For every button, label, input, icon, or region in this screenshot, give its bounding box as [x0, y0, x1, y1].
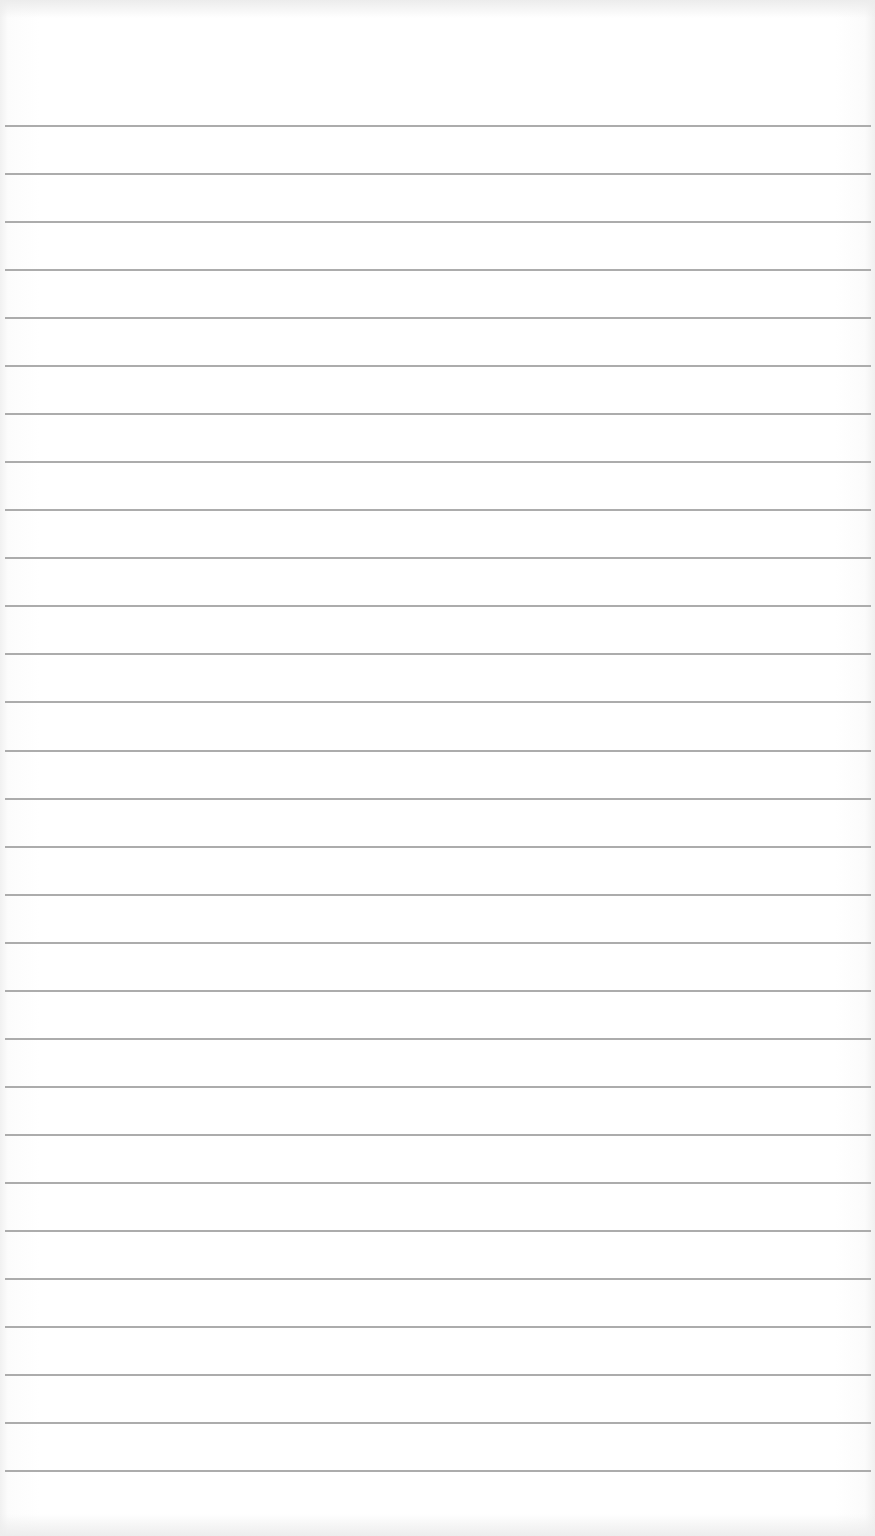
ruled-line — [5, 653, 871, 655]
ruled-line — [5, 1230, 871, 1232]
ruled-line — [5, 846, 871, 848]
ruled-line — [5, 365, 871, 367]
ruled-line — [5, 701, 871, 703]
ruled-line — [5, 1182, 871, 1184]
ruled-line — [5, 317, 871, 319]
ruled-line — [5, 461, 871, 463]
ruled-line — [5, 413, 871, 415]
ruled-line — [5, 509, 871, 511]
ruled-line — [5, 1134, 871, 1136]
ruled-line — [5, 1470, 871, 1472]
ruled-line — [5, 1038, 871, 1040]
ruled-line — [5, 1374, 871, 1376]
ruled-line — [5, 1278, 871, 1280]
ruled-line — [5, 125, 871, 127]
ruled-line — [5, 1086, 871, 1088]
top-edge-shadow — [0, 0, 875, 18]
ruled-line — [5, 894, 871, 896]
ruled-line — [5, 269, 871, 271]
bottom-edge-shadow — [0, 1514, 875, 1536]
lined-paper-sheet — [0, 0, 875, 1536]
ruled-line — [5, 750, 871, 752]
ruled-line — [5, 990, 871, 992]
ruled-line — [5, 605, 871, 607]
ruled-line — [5, 173, 871, 175]
ruled-line — [5, 942, 871, 944]
ruled-line — [5, 221, 871, 223]
ruled-line — [5, 1326, 871, 1328]
ruled-line — [5, 1422, 871, 1424]
ruled-line — [5, 557, 871, 559]
ruled-line — [5, 798, 871, 800]
